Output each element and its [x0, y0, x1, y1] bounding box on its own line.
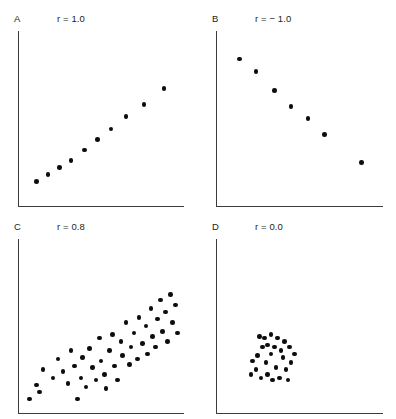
data-point: [82, 148, 87, 153]
data-point: [107, 348, 112, 353]
data-point: [163, 310, 168, 315]
data-point: [322, 132, 327, 137]
data-point: [260, 345, 265, 350]
data-point: [112, 364, 117, 369]
data-point: [109, 127, 114, 132]
data-point: [269, 352, 274, 357]
data-point: [286, 378, 291, 383]
data-point: [97, 336, 102, 341]
data-point: [46, 172, 51, 177]
data-point: [34, 179, 39, 184]
data-point: [272, 88, 277, 93]
data-point: [160, 329, 165, 334]
data-point: [254, 367, 259, 372]
data-point: [282, 339, 287, 344]
data-point: [269, 332, 274, 337]
data-point: [87, 346, 92, 351]
data-point: [255, 353, 260, 358]
panel-c-x-axis: [18, 413, 184, 414]
data-point: [99, 359, 104, 364]
data-point: [272, 345, 277, 350]
data-point: [144, 324, 149, 329]
data-point: [90, 365, 95, 370]
data-point: [72, 364, 77, 369]
data-point: [137, 315, 142, 320]
data-point: [155, 317, 160, 322]
data-point: [250, 359, 255, 364]
panel-a: A r = 1.0: [0, 0, 198, 210]
panel-b: B r = − 1.0: [198, 0, 396, 210]
data-point: [257, 334, 262, 339]
data-point: [289, 104, 294, 109]
panel-a-correlation-label: r = 1.0: [57, 13, 85, 24]
data-point: [259, 376, 264, 381]
data-point: [94, 378, 99, 383]
data-point: [124, 114, 129, 119]
data-point: [132, 331, 137, 336]
panel-d-x-axis: [216, 413, 383, 414]
data-point: [69, 348, 74, 353]
panel-b-x-axis: [216, 206, 383, 207]
data-point: [69, 158, 74, 163]
data-point: [110, 332, 115, 337]
data-point: [135, 357, 140, 362]
data-point: [274, 365, 279, 370]
data-point: [51, 376, 56, 381]
panel-a-x-axis: [18, 206, 184, 207]
data-point: [61, 369, 66, 374]
data-point: [153, 345, 158, 350]
data-point: [75, 397, 80, 402]
panel-d: D r = 0.0: [198, 210, 396, 419]
correlation-scatterplot-figure: A r = 1.0 B r = − 1.0 C r = 0.8 D r = 0.…: [0, 0, 396, 419]
data-point: [306, 116, 311, 121]
data-point: [292, 352, 297, 357]
data-point: [254, 69, 259, 74]
panel-c-plot-area: [18, 239, 184, 413]
data-point: [173, 303, 178, 308]
panel-d-letter: D: [212, 221, 219, 232]
data-point: [66, 381, 71, 386]
panel-d-plot-area: [216, 239, 383, 413]
data-point: [150, 334, 155, 339]
data-point: [120, 353, 125, 358]
data-point: [165, 339, 170, 344]
panel-a-plot-area: [18, 31, 184, 206]
data-point: [127, 362, 132, 367]
data-point: [284, 367, 289, 372]
panel-c: C r = 0.8: [0, 210, 198, 419]
data-point: [102, 372, 107, 377]
data-point: [104, 386, 109, 391]
panel-b-plot-area: [216, 31, 383, 206]
data-point: [34, 383, 39, 388]
data-point: [41, 367, 46, 372]
panel-c-correlation-label: r = 0.8: [57, 221, 85, 232]
data-point: [140, 341, 145, 346]
data-point: [277, 376, 282, 381]
data-point: [359, 160, 364, 165]
data-point: [262, 336, 267, 341]
data-point: [264, 360, 269, 365]
data-point: [119, 339, 124, 344]
data-point: [170, 320, 175, 325]
data-point: [129, 345, 134, 350]
panel-b-letter: B: [212, 13, 219, 24]
data-point: [265, 372, 270, 377]
data-point: [249, 372, 254, 377]
data-point: [37, 390, 42, 395]
data-point: [168, 292, 173, 297]
data-point: [270, 378, 275, 383]
panel-c-letter: C: [14, 221, 21, 232]
data-point: [275, 336, 280, 341]
data-point: [142, 102, 147, 107]
data-point: [145, 352, 150, 357]
panel-a-letter: A: [14, 13, 21, 24]
data-point: [162, 86, 167, 91]
panel-b-correlation-label: r = − 1.0: [255, 13, 291, 24]
data-point: [175, 331, 180, 336]
data-point: [287, 345, 292, 350]
data-point: [281, 355, 286, 360]
data-point: [289, 360, 294, 365]
data-point: [115, 378, 120, 383]
data-point: [279, 348, 284, 353]
data-point: [56, 357, 61, 362]
